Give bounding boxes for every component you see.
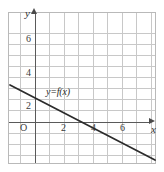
gridline-horizontal: [9, 44, 155, 45]
gridline-horizontal: [9, 88, 155, 89]
function-label: y=f(x): [46, 86, 70, 97]
gridline-horizontal: [9, 133, 155, 134]
x-axis: [9, 122, 151, 123]
x-axis-label: x: [151, 124, 156, 135]
y-axis-label: y: [25, 8, 30, 19]
y-axis-arrow-icon: [31, 8, 37, 14]
x-tick-label-4: 4: [91, 123, 96, 133]
y-axis: [35, 13, 36, 163]
gridline-horizontal: [9, 55, 155, 56]
y-tick-label-2: 2: [26, 101, 31, 111]
gridline-horizontal: [9, 144, 155, 145]
x-tick-label-2: 2: [61, 123, 66, 133]
gridline-horizontal: [9, 155, 155, 156]
graph-figure: y x O 6 4 2 2 4 6 y=f(x): [0, 0, 164, 172]
y-tick-label-4: 4: [26, 68, 31, 78]
origin-label: O: [20, 123, 27, 133]
y-tick-label-6: 6: [26, 34, 31, 44]
x-tick-label-6: 6: [120, 123, 125, 133]
